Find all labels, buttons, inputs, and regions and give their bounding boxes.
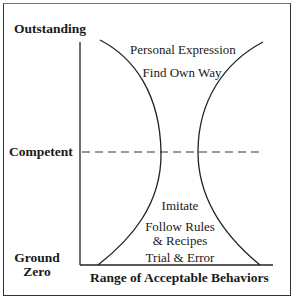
text-follow-rules: Follow Rules bbox=[140, 220, 220, 234]
text-find-own-way: Find Own Way bbox=[140, 66, 224, 80]
label-competent: Competent bbox=[9, 145, 73, 159]
label-ground: Ground bbox=[14, 251, 60, 265]
label-zero: Zero bbox=[14, 265, 60, 279]
label-outstanding: Outstanding bbox=[14, 22, 86, 36]
text-recipes: & Recipes bbox=[140, 234, 220, 248]
label-ground-zero: Ground Zero bbox=[14, 251, 60, 279]
text-imitate: Imitate bbox=[140, 199, 220, 213]
label-range-of-acceptable-behaviors: Range of Acceptable Behaviors bbox=[90, 271, 269, 285]
text-personal-expression: Personal Expression bbox=[130, 43, 234, 57]
text-trial-error: Trial & Error bbox=[135, 251, 225, 265]
